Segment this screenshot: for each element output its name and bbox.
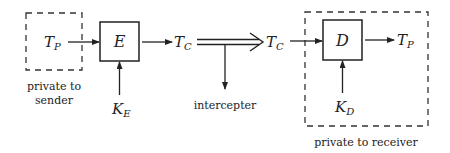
plaintext-out-label: TP xyxy=(397,31,414,50)
sender-label-line1: private to xyxy=(27,80,81,93)
encrypt-label: E xyxy=(113,32,126,51)
intercepter-label: intercepter xyxy=(194,99,257,112)
ciphertext-in-label: TC xyxy=(266,33,284,52)
channel-double-arrow xyxy=(197,33,263,51)
key-encrypt-label: KE xyxy=(111,100,131,119)
plaintext-in-label: TP xyxy=(44,33,61,52)
decrypt-label: D xyxy=(335,31,349,50)
ciphertext-out-label: TC xyxy=(174,33,192,52)
sender-label-line2: sender xyxy=(35,94,74,107)
receiver-label: private to receiver xyxy=(314,136,418,149)
cryptosystem-diagram: TP E KE private to sender TC intercepter… xyxy=(0,0,450,153)
key-decrypt-label: KD xyxy=(334,98,354,117)
